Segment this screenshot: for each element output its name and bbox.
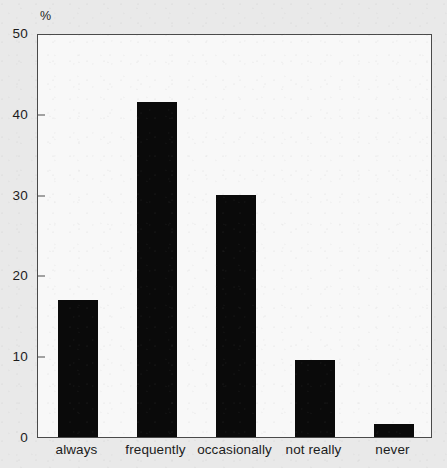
bars-layer bbox=[38, 35, 431, 437]
y-axis-tick-mark bbox=[37, 276, 45, 277]
bar-chart-figure: % 01020304050 alwaysfrequentlyoccasional… bbox=[0, 0, 447, 468]
bar bbox=[216, 195, 256, 437]
x-axis-tick-label: never bbox=[375, 443, 409, 457]
y-axis-tick-label: 10 bbox=[13, 350, 28, 364]
y-axis-tick-label: 40 bbox=[13, 108, 28, 122]
x-axis-tick-label: frequently bbox=[125, 443, 185, 457]
bar bbox=[374, 424, 414, 437]
y-axis-tick-label: 20 bbox=[13, 270, 28, 284]
bar bbox=[295, 360, 335, 437]
y-axis-tick-label: 0 bbox=[20, 431, 28, 445]
y-axis-unit-label: % bbox=[40, 10, 51, 23]
y-axis-tick-mark bbox=[37, 357, 45, 358]
y-axis-tick-label: 50 bbox=[13, 27, 28, 41]
y-axis-tick-label: 30 bbox=[13, 189, 28, 203]
bar bbox=[58, 300, 98, 437]
y-axis-tick-mark bbox=[37, 114, 45, 115]
y-axis-tick-labels: 01020304050 bbox=[0, 0, 28, 468]
x-axis-tick-label: always bbox=[56, 443, 98, 457]
x-axis-tick-label: occasionally bbox=[197, 443, 272, 457]
plot-area bbox=[37, 34, 432, 438]
bar bbox=[137, 102, 177, 437]
x-axis-tick-label: not really bbox=[286, 443, 342, 457]
y-axis-tick-mark bbox=[37, 195, 45, 196]
